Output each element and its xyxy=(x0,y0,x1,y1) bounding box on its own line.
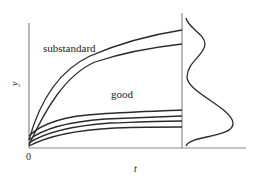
good-label: good xyxy=(111,88,134,100)
good-curves xyxy=(29,110,182,146)
growth-curves-diagram: substandard good y 0 t xyxy=(0,0,254,179)
density-curve xyxy=(186,18,233,146)
x-axis-label: t xyxy=(134,163,137,174)
y-axis-label: y xyxy=(9,81,20,87)
curve-substandard-2 xyxy=(29,44,182,145)
origin-label: 0 xyxy=(26,151,31,162)
curve-good-3 xyxy=(29,121,182,143)
curve-good-4 xyxy=(29,127,182,146)
substandard-label: substandard xyxy=(43,42,96,54)
